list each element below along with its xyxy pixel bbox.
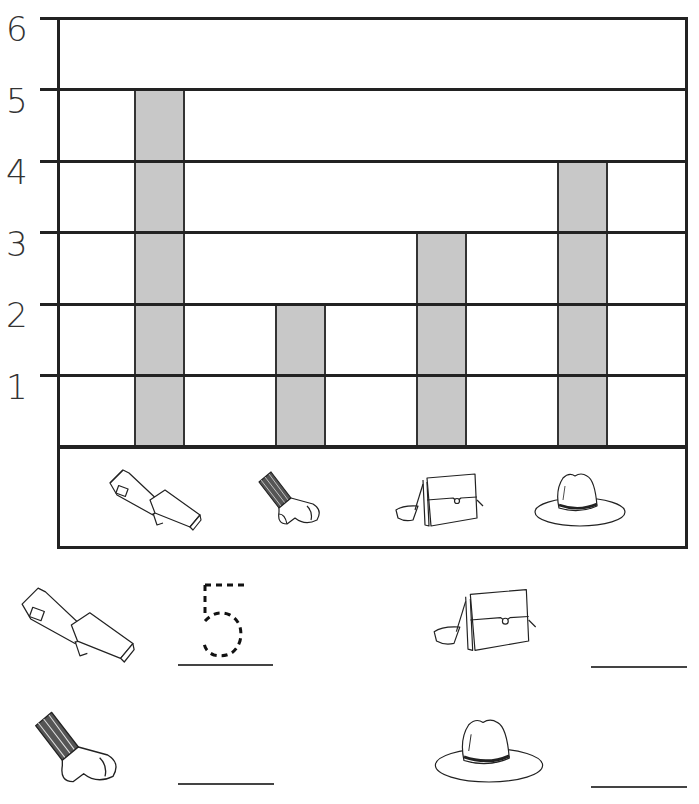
y-tick-3: 3 bbox=[6, 227, 36, 261]
answer-line-sock[interactable] bbox=[178, 783, 274, 785]
gridline-3 bbox=[40, 231, 688, 234]
gridline-5 bbox=[40, 88, 688, 91]
purse-icon bbox=[430, 585, 548, 655]
gridline-1 bbox=[40, 374, 688, 377]
jeans-icon bbox=[15, 582, 140, 662]
bar-jeans bbox=[134, 89, 185, 447]
bar-purse bbox=[416, 232, 467, 447]
answer-line-jeans[interactable] bbox=[178, 664, 273, 666]
gridline-6 bbox=[40, 17, 688, 20]
purse-icon bbox=[393, 470, 493, 530]
sock-icon bbox=[30, 707, 124, 787]
gridline-2 bbox=[40, 303, 688, 306]
y-tick-5: 5 bbox=[6, 84, 36, 118]
answer-line-purse[interactable] bbox=[591, 666, 687, 668]
y-tick-6: 6 bbox=[6, 12, 36, 46]
baseline bbox=[57, 445, 688, 449]
y-tick-2: 2 bbox=[6, 298, 36, 332]
answer-line-hat[interactable] bbox=[591, 786, 687, 788]
y-tick-4: 4 bbox=[6, 155, 36, 189]
y-tick-1: 1 bbox=[6, 370, 36, 404]
hat-icon bbox=[533, 470, 627, 530]
y-axis-line bbox=[57, 17, 60, 549]
hat-icon bbox=[433, 715, 545, 787]
traced-answer-5 bbox=[200, 583, 248, 659]
jeans-icon bbox=[105, 465, 205, 530]
sock-icon bbox=[255, 468, 325, 528]
picture-box-bottom bbox=[57, 546, 688, 549]
chart-right-border bbox=[685, 17, 688, 549]
gridline-4 bbox=[40, 160, 688, 163]
